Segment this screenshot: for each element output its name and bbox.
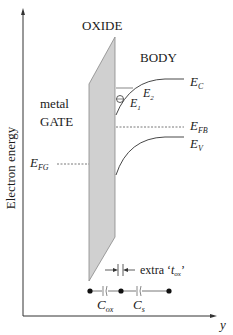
gate-label-gate: GATE: [40, 114, 73, 129]
e1-label: E1: [129, 96, 141, 112]
energy-axis: [21, 8, 25, 316]
x-axis-label: y: [218, 317, 226, 332]
ev-label: EV: [189, 136, 204, 153]
oxide-label: OXIDE: [82, 18, 122, 33]
position-axis: [23, 314, 217, 318]
arrow-left-icon: [123, 268, 128, 272]
body-label: BODY: [140, 50, 177, 65]
cs-label: Cs: [133, 297, 145, 314]
y-axis-label: Electron energy: [3, 126, 18, 209]
extra-tox-label: extra ‘tox’: [140, 263, 185, 278]
mos-band-diagram: Electron energy y OXIDE metal GATE EFG B…: [0, 0, 233, 335]
capacitor-circuit: [87, 285, 171, 297]
axis-arrow-up-icon: [21, 8, 25, 15]
oxide-barrier: [89, 37, 115, 281]
node-middle: [118, 288, 123, 293]
cox-label: Cox: [97, 297, 114, 314]
node-gate: [87, 288, 92, 293]
node-body: [166, 288, 171, 293]
gate-label-metal: metal: [40, 96, 69, 111]
e2-label: E2: [142, 86, 154, 102]
arrow-right-icon: [113, 268, 118, 272]
efg-label: EFG: [29, 155, 49, 172]
efb-label: EFB: [189, 118, 208, 135]
valence-band-edge: [116, 137, 184, 175]
ec-label: EC: [189, 74, 204, 91]
axis-arrow-right-icon: [210, 314, 217, 318]
extra-tox-marker: [105, 264, 135, 276]
